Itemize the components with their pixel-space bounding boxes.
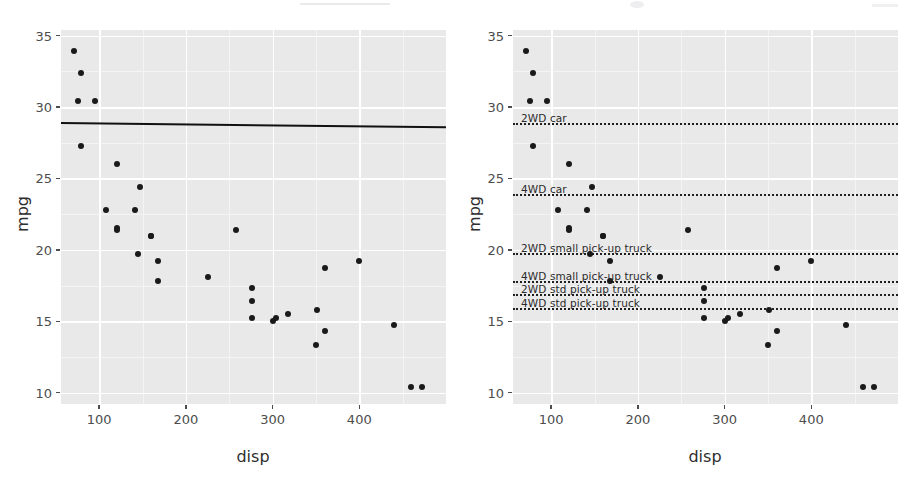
x-axis-tick: [272, 405, 273, 409]
y-axis-tick-label: 15: [471, 314, 504, 329]
y-axis-tick: [56, 106, 60, 107]
gridline-minor-vertical: [681, 30, 682, 404]
data-point: [737, 311, 743, 317]
y-axis-tick-label: 20: [19, 242, 52, 257]
data-point: [249, 298, 255, 304]
data-point: [765, 342, 771, 348]
data-point: [155, 278, 161, 284]
fit-line: [61, 122, 446, 128]
y-axis-tick: [56, 178, 60, 179]
data-point: [685, 227, 691, 233]
data-point: [774, 265, 780, 271]
data-point: [566, 227, 572, 233]
gridline-minor-vertical: [229, 30, 230, 404]
x-axis-title-left: disp: [236, 447, 269, 466]
y-axis-tick: [508, 178, 512, 179]
gridline-major-horizontal: [513, 107, 898, 109]
data-point: [322, 328, 328, 334]
gridline-major-vertical: [99, 30, 101, 404]
gridline-minor-horizontal: [61, 214, 446, 215]
data-point: [555, 207, 561, 213]
x-axis-tick: [359, 405, 360, 409]
gridline-major-horizontal: [513, 36, 898, 38]
data-point: [75, 98, 81, 104]
data-point: [249, 315, 255, 321]
chart-panel-right: 2WD car4WD car2WD small pick-up truck4WD…: [452, 0, 904, 477]
data-point: [391, 322, 397, 328]
data-point: [132, 207, 138, 213]
gridline-major-horizontal: [61, 321, 446, 323]
gridline-major-horizontal: [513, 178, 898, 180]
data-point: [314, 307, 320, 313]
reference-line-label: 4WD small pick-up truck: [521, 271, 652, 282]
reference-line: [513, 123, 898, 125]
y-axis-title-right: mpg: [465, 196, 484, 232]
y-axis-tick: [508, 392, 512, 393]
gridline-minor-horizontal: [513, 71, 898, 72]
data-point: [322, 265, 328, 271]
data-point: [114, 161, 120, 167]
x-axis-tick: [811, 405, 812, 409]
gridline-major-horizontal: [513, 321, 898, 323]
data-point: [205, 274, 211, 280]
data-point: [701, 298, 707, 304]
x-axis-tick: [98, 405, 99, 409]
gridline-minor-vertical: [143, 30, 144, 404]
data-point: [774, 328, 780, 334]
x-axis-title-right: disp: [688, 447, 721, 466]
gridline-minor-vertical: [595, 30, 596, 404]
gridline-minor-horizontal: [61, 71, 446, 72]
data-point: [808, 258, 814, 264]
y-axis-tick: [56, 249, 60, 250]
data-point: [860, 384, 866, 390]
data-point: [589, 184, 595, 190]
reference-line-label: 4WD car: [521, 184, 567, 195]
data-point: [544, 98, 550, 104]
x-axis-tick: [637, 405, 638, 409]
x-axis-tick: [550, 405, 551, 409]
data-point: [408, 384, 414, 390]
data-point: [527, 98, 533, 104]
data-point: [114, 227, 120, 233]
gridline-major-horizontal: [61, 36, 446, 38]
data-point: [871, 384, 877, 390]
y-axis-tick: [508, 35, 512, 36]
gridline-minor-vertical: [855, 30, 856, 404]
plot-area-right: 2WD car4WD car2WD small pick-up truck4WD…: [513, 30, 898, 404]
data-point: [584, 207, 590, 213]
data-point: [523, 48, 529, 54]
gridline-minor-horizontal: [61, 143, 446, 144]
y-axis-tick-label: 25: [19, 171, 52, 186]
data-point: [137, 184, 143, 190]
data-point: [155, 258, 161, 264]
y-axis-tick-label: 20: [471, 242, 504, 257]
y-axis-tick: [508, 249, 512, 250]
gridline-major-horizontal: [513, 393, 898, 395]
x-axis-tick-label: 100: [539, 412, 564, 427]
x-axis-tick: [724, 405, 725, 409]
data-point: [722, 318, 728, 324]
y-axis-tick-label: 25: [471, 171, 504, 186]
gridline-major-vertical: [273, 30, 275, 404]
gridline-major-vertical: [186, 30, 188, 404]
data-point: [843, 322, 849, 328]
y-axis-tick-label: 15: [19, 314, 52, 329]
reference-line: [513, 194, 898, 196]
y-axis-tick-label: 10: [471, 385, 504, 400]
data-point: [270, 318, 276, 324]
data-point: [233, 227, 239, 233]
gridline-major-horizontal: [61, 250, 446, 252]
data-point: [148, 233, 154, 239]
data-point: [78, 70, 84, 76]
x-axis-tick-label: 100: [87, 412, 112, 427]
y-axis-tick: [56, 35, 60, 36]
data-point: [78, 143, 84, 149]
gridline-major-vertical: [359, 30, 361, 404]
data-point: [701, 285, 707, 291]
data-point: [657, 274, 663, 280]
data-point: [249, 285, 255, 291]
data-point: [419, 384, 425, 390]
data-point: [313, 342, 319, 348]
gridline-major-vertical: [551, 30, 553, 404]
y-axis-tick: [508, 106, 512, 107]
